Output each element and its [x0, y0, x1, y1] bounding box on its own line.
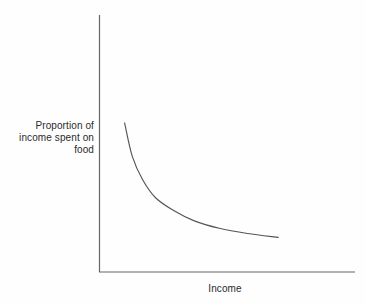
y-axis-label: Proportion of income spent on food: [8, 120, 94, 157]
chart-figure: Proportion of income spent on food Incom…: [0, 0, 366, 304]
x-axis-label: Income: [175, 283, 275, 295]
engel-curve: [125, 123, 279, 237]
